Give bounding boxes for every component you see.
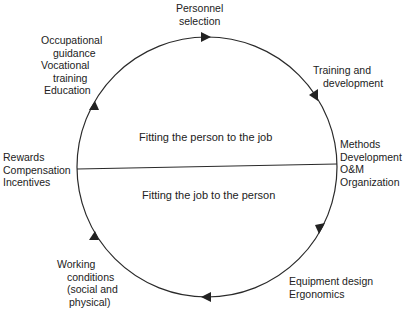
node-line: Methods xyxy=(340,138,402,151)
node-equipment-design: Equipment design Ergonomics xyxy=(289,275,373,300)
node-line: O&M xyxy=(340,163,402,176)
node-line: selection xyxy=(176,15,223,28)
arrow-bottom-icon xyxy=(201,292,211,302)
node-methods: Methods Development O&M Organization xyxy=(340,138,402,188)
arrow-top-icon xyxy=(201,32,211,42)
upper-half-label: Fitting the person to the job xyxy=(139,131,272,143)
node-line: Rewards xyxy=(3,151,71,164)
node-line: Education xyxy=(41,84,102,97)
node-line: training xyxy=(41,72,102,85)
node-line: Training and xyxy=(313,64,383,77)
node-line: (social and xyxy=(57,283,118,296)
node-working-conditions: Working conditions (social and physical) xyxy=(57,258,118,308)
node-line: guidance xyxy=(41,47,102,60)
divider-line xyxy=(77,164,337,169)
node-training-development: Training and development xyxy=(313,64,383,89)
node-personnel-selection: Personnel selection xyxy=(176,2,223,27)
arrow-upper-right-icon xyxy=(309,89,318,101)
node-line: Equipment design xyxy=(289,275,373,288)
node-line: Occupational xyxy=(41,34,102,47)
node-line: development xyxy=(313,77,383,90)
node-line: Incentives xyxy=(3,176,71,189)
node-line: conditions xyxy=(57,271,118,284)
node-line: Development xyxy=(340,151,402,164)
lower-half-label: Fitting the job to the person xyxy=(142,189,275,201)
node-line: Vocational xyxy=(41,59,102,72)
node-line: physical) xyxy=(57,296,118,309)
node-line: Organization xyxy=(340,176,402,189)
node-line: Personnel xyxy=(176,2,223,15)
node-line: Ergonomics xyxy=(289,288,373,301)
node-line: Working xyxy=(57,258,118,271)
node-rewards: Rewards Compensation Incentives xyxy=(3,151,71,189)
node-line: Compensation xyxy=(3,164,71,177)
node-occupational-guidance: Occupational guidance Vocational trainin… xyxy=(41,34,102,97)
